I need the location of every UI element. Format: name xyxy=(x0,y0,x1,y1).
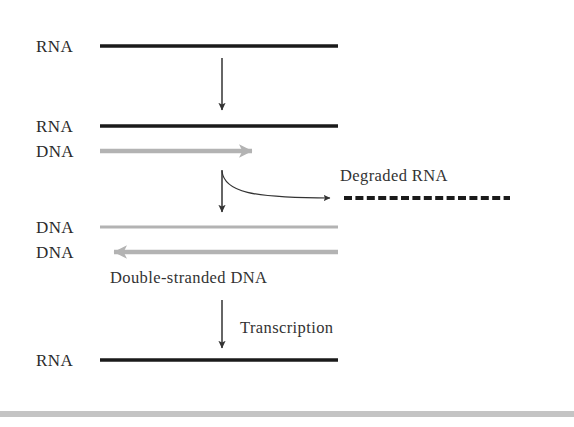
strand-label-rna-bottom: RNA xyxy=(36,352,73,369)
annotation-double-stranded-dna: Double-stranded DNA xyxy=(110,270,267,287)
bottom-divider-rule xyxy=(0,411,574,417)
strand-label-rna-second: RNA xyxy=(36,118,73,135)
strand-label-dna-third: DNA xyxy=(36,143,74,160)
figure-canvas: RNA RNA DNA DNA DNA RNA Degraded RNA Dou… xyxy=(0,0,574,427)
strand-label-rna-top: RNA xyxy=(36,38,73,55)
diagram-graphics xyxy=(0,0,574,427)
strand-label-dna-fourth: DNA xyxy=(36,219,74,236)
annotation-transcription: Transcription xyxy=(240,320,334,337)
annotation-degraded-rna: Degraded RNA xyxy=(340,168,448,185)
strand-label-dna-fifth: DNA xyxy=(36,244,74,261)
curve-to-degraded-rna xyxy=(222,171,330,198)
